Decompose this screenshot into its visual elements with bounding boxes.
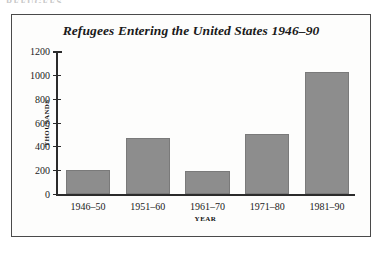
y-axis-tick-label: 1000 bbox=[30, 69, 50, 80]
x-axis-tick-label: 1951–60 bbox=[130, 201, 165, 212]
bar bbox=[126, 138, 170, 194]
y-axis-tick-label: 800 bbox=[35, 93, 50, 104]
x-axis-tick-label: 1946–50 bbox=[70, 201, 105, 212]
bar-group: 1961–70 bbox=[185, 51, 229, 194]
y-axis-tick-label: 1200 bbox=[30, 46, 50, 57]
bar-group: 1946–50 bbox=[66, 51, 110, 194]
y-axis-tick-label: 0 bbox=[45, 189, 50, 200]
bar-group: 1981–90 bbox=[305, 51, 349, 194]
chart-title: Refugees Entering the United States 1946… bbox=[12, 23, 370, 39]
x-axis-title: YEAR bbox=[56, 215, 355, 223]
bar-group: 1971–80 bbox=[245, 51, 289, 194]
y-axis-tick-mark bbox=[53, 194, 61, 195]
x-axis-tick-label: 1981–90 bbox=[310, 201, 345, 212]
plot-area: THOUSANDS 020040060080010001200 1946–501… bbox=[56, 51, 355, 194]
bar bbox=[245, 134, 289, 194]
y-axis-tick-label: 600 bbox=[35, 117, 50, 128]
y-axis-tick-label: 400 bbox=[35, 141, 50, 152]
x-axis-tick-label: 1961–70 bbox=[190, 201, 225, 212]
figure-frame: Refugees Entering the United States 1946… bbox=[11, 14, 371, 237]
x-axis-line bbox=[56, 194, 355, 196]
bar-group: 1951–60 bbox=[126, 51, 170, 194]
y-axis-tick-label: 200 bbox=[35, 165, 50, 176]
bar bbox=[185, 171, 229, 194]
bars-layer: 1946–501951–601961–701971–801981–90 bbox=[58, 51, 355, 194]
x-axis-tick-label: 1971–80 bbox=[250, 201, 285, 212]
bar bbox=[305, 72, 349, 194]
bar bbox=[66, 170, 110, 194]
clipped-header-text: REFUGEES bbox=[6, 0, 63, 3]
